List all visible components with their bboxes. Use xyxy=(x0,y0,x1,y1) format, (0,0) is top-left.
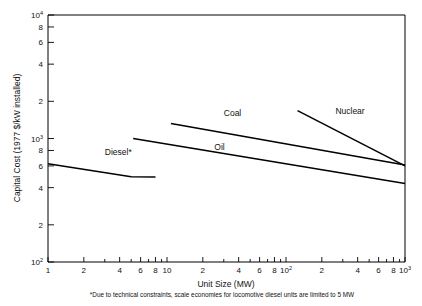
y-tick-label: 6 xyxy=(39,38,44,47)
y-tick-label: 8 xyxy=(39,146,44,155)
y-tick-label: 4 xyxy=(39,60,44,69)
x-tick-label: 2 xyxy=(320,266,325,275)
series-label-oil: Oil xyxy=(214,142,225,152)
series-line-nuclear xyxy=(298,111,405,166)
y-tick-label: 4 xyxy=(39,184,44,193)
x-tick-label: 2 xyxy=(82,266,87,275)
series-line-diesel xyxy=(48,164,155,177)
series-label-diesel: Diesel* xyxy=(105,147,133,157)
capital-cost-vs-unit-size-chart: 124681024681022468103 10486421038642102 … xyxy=(0,0,422,306)
x-tick-label: 8 xyxy=(391,266,396,275)
x-axis-tick-labels: 124681024681022468103 xyxy=(46,265,411,275)
x-tick-label: 2 xyxy=(201,266,206,275)
x-tick-label: 6 xyxy=(138,266,143,275)
x-tick-label: 6 xyxy=(257,266,262,275)
series-label-coal: Coal xyxy=(224,108,242,118)
y-axis-ticks xyxy=(48,15,54,262)
chart-footnote: *Due to technical constraints, scale eco… xyxy=(90,291,355,298)
y-tick-label: 102 xyxy=(31,257,43,267)
x-tick-label: 4 xyxy=(355,266,360,275)
series-label-nuclear: Nuclear xyxy=(335,106,364,116)
y-tick-label: 8 xyxy=(39,23,44,32)
y-tick-label: 103 xyxy=(31,134,43,144)
y-axis-tick-labels: 10486421038642102 xyxy=(31,10,44,267)
y-tick-label: 6 xyxy=(39,162,44,171)
series-lines xyxy=(48,111,405,184)
y-axis-title: Capital Cost (1977 $/kW installed) xyxy=(12,74,22,203)
series-line-coal xyxy=(171,124,405,165)
x-axis-title: Unit Size (MW) xyxy=(197,279,254,289)
y-tick-label: 104 xyxy=(31,10,43,20)
x-tick-label: 8 xyxy=(153,266,158,275)
x-tick-label: 10 xyxy=(163,266,172,275)
y-tick-label: 2 xyxy=(39,97,44,106)
x-axis-ticks xyxy=(48,257,405,262)
x-tick-label: 4 xyxy=(236,266,241,275)
x-tick-label: 103 xyxy=(399,265,411,275)
x-tick-label: 1 xyxy=(46,266,51,275)
series-labels: Diesel*OilCoalNuclear xyxy=(105,106,365,158)
x-tick-label: 102 xyxy=(280,265,292,275)
y-tick-label: 2 xyxy=(39,221,44,230)
x-tick-label: 4 xyxy=(117,266,122,275)
x-tick-label: 8 xyxy=(272,266,277,275)
x-tick-label: 6 xyxy=(376,266,381,275)
